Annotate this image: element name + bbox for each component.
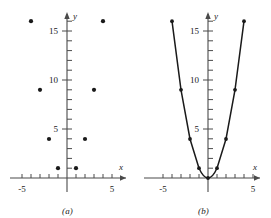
data-point [224,137,228,141]
data-point [188,137,192,141]
x-tick-label-5: 5 [110,184,115,194]
y-axis-label: y [213,11,218,21]
panel-caption-b: (b) [136,206,271,216]
data-point [83,137,87,141]
panel-caption-a: (a) [0,206,135,216]
axes-a [10,12,126,192]
y-tick-label-10: 10 [190,75,200,85]
data-point [242,19,246,23]
figure-two-panel-parabola: -5 5 5 10 15 x y (a) [0,0,271,218]
x-axis-label: x [118,162,123,172]
data-point [197,166,201,170]
data-point [215,166,219,170]
y-tick-label-15: 15 [49,26,59,36]
data-point [101,19,105,23]
data-point [29,19,33,23]
x-tick-label-5: 5 [251,184,256,194]
data-point [179,88,183,92]
x-axis-arrow [120,175,126,180]
y-axis-label: y [72,11,77,21]
data-point [56,166,60,170]
data-point [38,88,42,92]
x-axis-label: x [252,162,257,172]
y-axis-arrow [64,12,69,19]
y-tick-label-5: 5 [195,124,200,134]
x-tick-label-neg5: -5 [18,184,26,194]
scatter-plot-a: -5 5 5 10 15 x y [0,0,135,200]
y-axis-arrow [205,12,210,19]
scatter-plot-b: -5 5 5 10 15 x y [136,0,271,200]
panel-b: -5 5 5 10 15 x y (b) [136,0,271,218]
data-point [170,19,174,23]
x-axis-arrow [254,175,260,180]
data-point [92,88,96,92]
y-tick-label-10: 10 [49,75,59,85]
data-point [74,166,78,170]
axes-b [144,12,260,192]
y-tick-label-5: 5 [54,124,59,134]
data-point [233,88,237,92]
data-point [206,176,210,180]
panel-a: -5 5 5 10 15 x y (a) [0,0,135,218]
y-tick-label-15: 15 [190,26,200,36]
x-tick-label-neg5: -5 [159,184,167,194]
data-point [47,137,51,141]
